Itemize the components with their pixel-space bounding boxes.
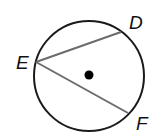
chord-ef: [36, 62, 128, 113]
circle-diagram: E D F: [0, 0, 165, 136]
center-dot: [85, 71, 94, 80]
label-f: F: [136, 113, 149, 134]
label-d: D: [129, 12, 143, 33]
chord-ed: [36, 32, 121, 62]
label-e: E: [16, 52, 29, 73]
